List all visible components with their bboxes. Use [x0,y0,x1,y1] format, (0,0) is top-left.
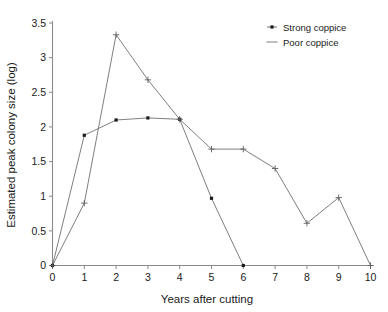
y-tick-label: 0 [40,259,46,271]
y-axis-tick-labels: 00.511.522.533.5 [31,17,46,271]
axes [53,21,373,266]
legend-dot [270,25,273,28]
marker-dot [242,264,245,267]
marker-plus [113,32,119,38]
marker-dot [146,116,149,119]
y-tick-label: 3 [40,51,46,63]
legend-label-0: Strong coppice [283,22,346,33]
marker-dot [83,134,86,137]
x-tick-label: 9 [336,271,342,283]
x-axis-title: Years after cutting [161,293,253,305]
x-tick-label: 3 [145,271,151,283]
marker-plus [49,262,55,268]
x-axis-tick-labels: 012345678910 [50,271,377,283]
y-tick-label: 0.5 [31,225,46,237]
chart-legend: Strong coppicePoor coppice [267,22,347,48]
x-tick-label: 8 [304,271,310,283]
x-tick-label: 1 [81,271,87,283]
y-tick-label: 1 [40,190,46,202]
y-tick-label: 1.5 [31,155,46,167]
marker-dot [210,197,213,200]
series-line-0 [53,118,244,266]
x-tick-label: 10 [365,271,377,283]
x-tick-label: 2 [113,271,119,283]
x-tick-label: 6 [240,271,246,283]
y-axis-title: Estimated peak colony size (log) [5,62,17,228]
marker-plus [240,146,246,152]
x-tick-label: 4 [177,271,183,283]
data-markers [49,32,373,269]
x-tick-label: 5 [209,271,215,283]
axis-ticks [49,23,371,269]
chart-figure: 012345678910 00.511.522.533.5 Strong cop… [0,0,388,312]
marker-dot [115,118,118,121]
marker-plus [367,262,373,268]
x-tick-label: 0 [50,271,56,283]
line-chart-plot: 012345678910 00.511.522.533.5 Strong cop… [0,0,388,312]
y-tick-label: 2 [40,121,46,133]
marker-plus [272,165,278,171]
legend-label-1: Poor coppice [283,37,338,48]
y-tick-label: 3.5 [31,17,46,29]
x-tick-label: 7 [272,271,278,283]
marker-plus [81,200,87,206]
y-tick-label: 2.5 [31,86,46,98]
legend-marker-dot [267,25,277,28]
